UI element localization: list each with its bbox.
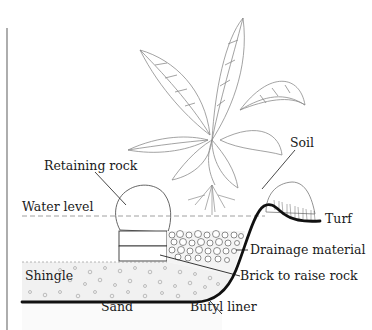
label-shingle: Shingle: [25, 270, 73, 283]
retaining-rock-leader: [95, 172, 126, 205]
label-drainage-material: Drainage material: [250, 244, 365, 257]
label-soil: Soil: [290, 137, 314, 150]
label-brick-to-raise-rock: Brick to raise rock: [240, 270, 358, 283]
label-water-level: Water level: [22, 201, 93, 214]
label-retaining-rock: Retaining rock: [44, 160, 137, 173]
plant-foliage: [128, 18, 305, 188]
label-sand: Sand: [101, 301, 133, 314]
plant-roots: [188, 185, 235, 215]
label-turf: Turf: [325, 213, 352, 226]
bricks: [119, 231, 167, 261]
label-butyl-liner: Butyl liner: [190, 301, 257, 314]
retaining-rock: [116, 185, 171, 232]
